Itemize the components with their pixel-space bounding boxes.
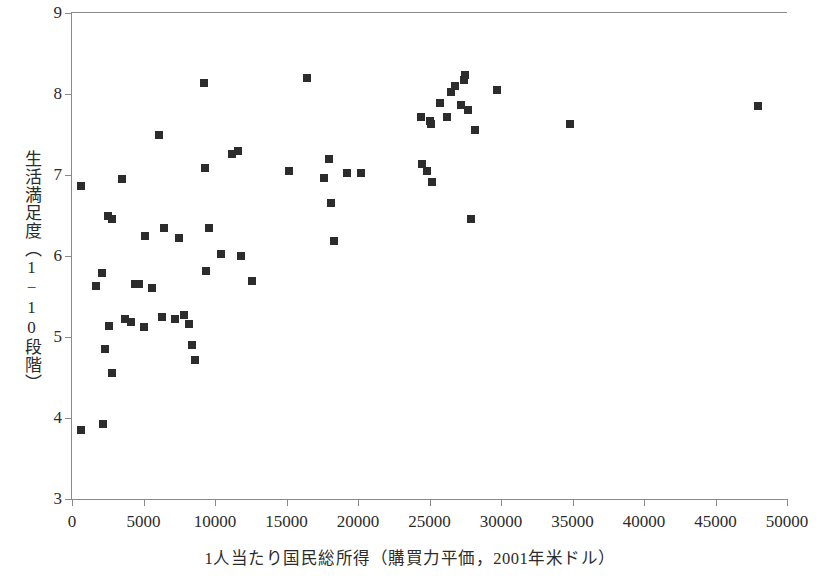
x-axis-tick-label: 10000	[194, 512, 237, 532]
x-axis-tick-label: 5000	[127, 512, 161, 532]
data-point	[118, 175, 126, 183]
data-point	[160, 224, 168, 232]
data-point	[108, 369, 116, 377]
x-axis-tick	[644, 499, 645, 506]
data-point	[320, 174, 328, 182]
data-point	[325, 155, 333, 163]
y-axis-tick	[65, 94, 72, 95]
data-point	[234, 147, 242, 155]
data-point	[248, 277, 256, 285]
data-point	[217, 250, 225, 258]
data-point	[101, 345, 109, 353]
data-point	[135, 280, 143, 288]
data-point	[237, 252, 245, 260]
y-axis-tick	[65, 13, 72, 14]
data-point	[105, 322, 113, 330]
data-point	[357, 169, 365, 177]
y-axis-tick-label: 9	[54, 3, 63, 23]
data-point	[423, 167, 431, 175]
x-axis-tick-label: 40000	[623, 512, 666, 532]
data-point	[108, 215, 116, 223]
scatter-chart-figure: 生活満足度（1−10段階） 34567890500010000150002000…	[0, 0, 820, 582]
y-axis-tick-label: 5	[54, 327, 63, 347]
x-axis-tick	[72, 499, 73, 506]
x-axis-tick-label: 20000	[337, 512, 380, 532]
data-point	[436, 99, 444, 107]
data-point	[428, 178, 436, 186]
x-axis-tick	[144, 499, 145, 506]
data-point	[77, 426, 85, 434]
y-axis-tick	[65, 337, 72, 338]
data-point	[285, 167, 293, 175]
x-axis-tick-label: 45000	[694, 512, 737, 532]
x-axis-tick	[573, 499, 574, 506]
y-axis-tick-label: 4	[54, 408, 63, 428]
data-point	[303, 74, 311, 82]
data-point	[188, 341, 196, 349]
data-point	[175, 234, 183, 242]
x-axis-tick	[287, 499, 288, 506]
data-point	[754, 102, 762, 110]
y-axis-tick-label: 8	[54, 84, 63, 104]
y-axis-title: 生活満足度（1−10段階）	[6, 150, 40, 400]
data-point	[417, 113, 425, 121]
x-axis-tick-label: 0	[68, 512, 77, 532]
x-axis-tick	[358, 499, 359, 506]
data-point	[148, 284, 156, 292]
data-point	[171, 315, 179, 323]
plot-area: 3456789050001000015000200002500030000350…	[71, 12, 787, 500]
data-point	[461, 71, 469, 79]
data-point	[330, 237, 338, 245]
data-point	[99, 420, 107, 428]
data-point	[180, 311, 188, 319]
x-axis-tick	[215, 499, 216, 506]
x-axis-tick	[501, 499, 502, 506]
x-axis-tick	[430, 499, 431, 506]
data-point	[443, 113, 451, 121]
data-point	[327, 199, 335, 207]
data-point	[467, 215, 475, 223]
data-point	[155, 131, 163, 139]
x-axis-tick-label: 50000	[766, 512, 809, 532]
data-point	[127, 318, 135, 326]
y-axis-tick	[65, 175, 72, 176]
x-axis-title: 1人当たり国民総所得（購買力平価，2001年米ドル）	[0, 545, 820, 569]
data-point	[201, 164, 209, 172]
x-axis-tick-label: 35000	[551, 512, 594, 532]
data-point	[205, 224, 213, 232]
data-point	[98, 269, 106, 277]
x-axis-tick-label: 25000	[408, 512, 451, 532]
data-point	[191, 356, 199, 364]
data-point	[471, 126, 479, 134]
x-axis-tick	[787, 499, 788, 506]
y-axis-tick	[65, 256, 72, 257]
data-point	[140, 323, 148, 331]
data-point	[77, 182, 85, 190]
data-point	[185, 320, 193, 328]
data-point	[451, 82, 459, 90]
y-axis-tick-label: 6	[54, 246, 63, 266]
data-point	[200, 79, 208, 87]
data-point	[566, 120, 574, 128]
data-point	[464, 106, 472, 114]
data-point	[427, 120, 435, 128]
data-point	[493, 86, 501, 94]
data-point	[343, 169, 351, 177]
y-axis-tick-label: 3	[54, 489, 63, 509]
data-point	[141, 232, 149, 240]
data-point	[92, 282, 100, 290]
data-point	[158, 313, 166, 321]
y-axis-tick-label: 7	[54, 165, 63, 185]
x-axis-tick	[716, 499, 717, 506]
y-axis-tick	[65, 499, 72, 500]
data-point	[202, 267, 210, 275]
x-axis-tick-label: 30000	[480, 512, 523, 532]
x-axis-tick-label: 15000	[265, 512, 308, 532]
y-axis-tick	[65, 418, 72, 419]
